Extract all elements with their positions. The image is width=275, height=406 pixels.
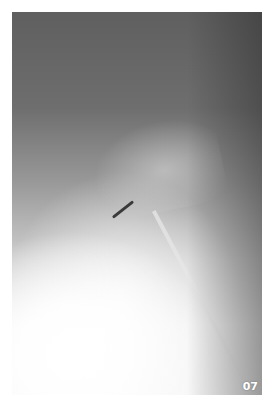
dark-linear-artifact [112, 200, 134, 218]
image-number-label: 07 [243, 380, 258, 393]
xray-image: 07 [12, 12, 262, 395]
vertebral-region [84, 109, 230, 224]
bone-contour [152, 210, 245, 380]
